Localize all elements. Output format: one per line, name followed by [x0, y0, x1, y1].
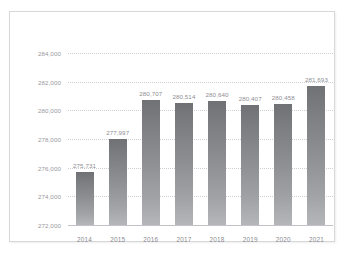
bar-group: 275,7312014: [68, 53, 101, 225]
bar-value-label: 280,640: [206, 91, 229, 98]
bar[interactable]: 277,997: [109, 139, 127, 225]
bar-value-label: 280,514: [172, 93, 195, 100]
bar-value-label: 275,731: [73, 162, 96, 169]
y-axis-tick-label: 276,000: [38, 164, 61, 171]
bar[interactable]: 280,514: [175, 103, 193, 225]
y-axis-tick-label: 278,000: [38, 136, 61, 143]
bar[interactable]: 280,640: [208, 101, 226, 225]
bar[interactable]: 275,731: [76, 172, 94, 225]
bar-group: 281,6932021: [300, 53, 333, 225]
bar-value-label: 280,407: [239, 95, 262, 102]
x-axis-tick-label: 2020: [276, 236, 291, 243]
bar-value-label: 280,458: [272, 94, 295, 101]
x-axis-tick-label: 2018: [210, 236, 225, 243]
bars: 275,7312014277,9972015280,7072016280,514…: [68, 53, 333, 225]
y-axis-tick-label: 284,000: [38, 50, 61, 57]
bar[interactable]: 281,693: [307, 86, 325, 225]
chart-page: 272,000274,000276,000278,000280,000282,0…: [0, 0, 344, 260]
bar-group: 280,7072016: [134, 53, 167, 225]
chart-frame: 272,000274,000276,000278,000280,000282,0…: [9, 11, 335, 242]
bar[interactable]: 280,458: [274, 104, 292, 225]
y-axis-tick-label: 280,000: [38, 107, 61, 114]
bar[interactable]: 280,407: [241, 105, 259, 226]
bar-value-label: 277,997: [106, 129, 129, 136]
x-axis-tick-label: 2019: [243, 236, 258, 243]
y-axis-tick-label: 274,000: [38, 193, 61, 200]
bar[interactable]: 280,707: [142, 100, 160, 225]
x-axis-tick-label: 2017: [176, 236, 191, 243]
y-axis-tick-label: 272,000: [38, 222, 61, 229]
x-axis-tick-label: 2016: [143, 236, 158, 243]
bar-group: 280,6402018: [201, 53, 234, 225]
axis-baseline: [68, 225, 333, 226]
bar-value-label: 281,693: [305, 76, 328, 83]
x-axis-tick-label: 2021: [309, 236, 324, 243]
bar-value-label: 280,707: [139, 90, 162, 97]
bar-group: 280,4582020: [267, 53, 300, 225]
bar-group: 277,9972015: [101, 53, 134, 225]
y-axis-tick-label: 282,000: [38, 78, 61, 85]
bar-group: 280,5142017: [167, 53, 200, 225]
x-axis-tick-label: 2014: [77, 236, 92, 243]
plot-area: 272,000274,000276,000278,000280,000282,0…: [68, 53, 333, 225]
bar-group: 280,4072019: [234, 53, 267, 225]
x-axis-tick-label: 2015: [110, 236, 125, 243]
